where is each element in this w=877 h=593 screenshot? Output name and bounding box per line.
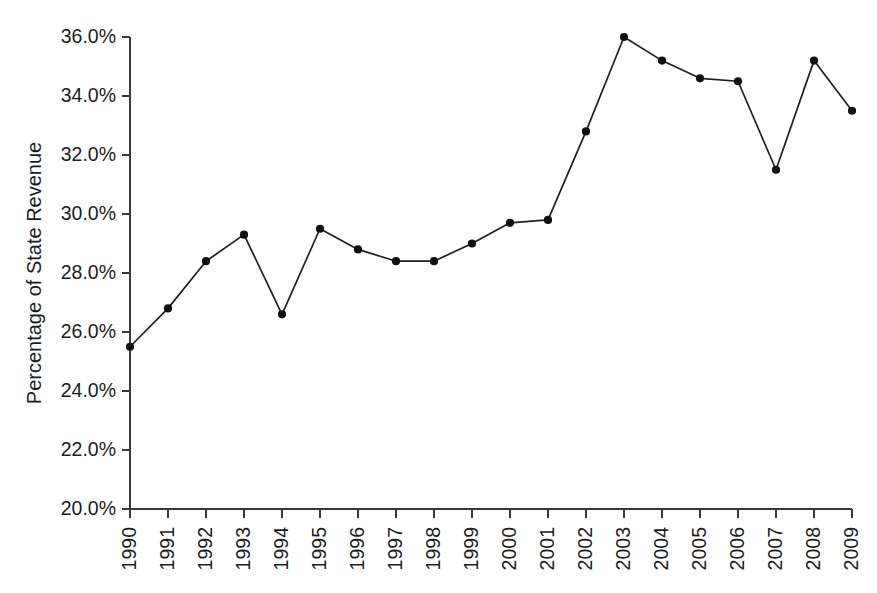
y-tick-label: 26.0% [61,320,116,342]
x-tick-label: 2008 [802,527,824,570]
x-tick-label: 2009 [840,527,862,570]
x-tick-label: 2000 [498,527,520,571]
y-tick-label: 32.0% [61,143,116,165]
data-point-marker [620,33,628,41]
x-tick-label: 1990 [118,527,140,571]
y-tick-label: 28.0% [61,261,116,283]
chart-figure: Percentage of State Revenue 20.0%22.0%24… [0,0,877,593]
x-tick-label: 2005 [688,527,710,571]
data-point-marker [582,127,590,135]
x-tick-label: 1993 [232,527,254,570]
data-point-marker [506,219,514,227]
y-tick-label: 30.0% [61,202,116,224]
x-tick-label: 1992 [194,527,216,570]
data-point-marker [164,304,172,312]
y-axis-title-text: Percentage of State Revenue [23,142,45,404]
data-point-marker [392,257,400,265]
x-tick-label: 2007 [764,527,786,570]
x-tick-label: 1991 [156,527,178,570]
data-point-marker [734,77,742,85]
data-point-marker [240,231,248,239]
data-point-marker [316,225,324,233]
y-tick-label: 22.0% [61,438,116,460]
data-point-marker [202,257,210,265]
data-point-marker [772,166,780,174]
y-axis-title: Percentage of State Revenue [23,142,45,404]
x-tick-label: 2004 [650,527,672,571]
data-point-marker [810,57,818,65]
x-tick-label: 2006 [726,527,748,570]
data-point-marker [544,216,552,224]
data-point-marker [126,343,134,351]
data-point-marker [848,107,856,115]
y-tick-label: 20.0% [61,497,116,519]
x-tick-label: 2003 [612,527,634,570]
y-tick-label: 24.0% [61,379,116,401]
data-point-marker [278,310,286,318]
y-tick-label: 34.0% [61,84,116,106]
x-tick-label: 1998 [422,527,444,570]
data-point-marker [696,74,704,82]
data-point-marker [658,57,666,65]
data-point-marker [430,257,438,265]
line-chart: Percentage of State Revenue 20.0%22.0%24… [0,0,877,593]
x-tick-label: 2001 [536,527,558,570]
x-tick-label: 1997 [384,527,406,570]
data-point-marker [468,239,476,247]
x-tick-label: 1999 [460,527,482,570]
data-point-marker [354,245,362,253]
chart-background [0,0,877,593]
x-tick-label: 2002 [574,527,596,570]
x-tick-label: 1996 [346,527,368,570]
x-tick-label: 1995 [308,527,330,571]
x-tick-label: 1994 [270,527,292,571]
y-tick-label: 36.0% [61,25,116,47]
